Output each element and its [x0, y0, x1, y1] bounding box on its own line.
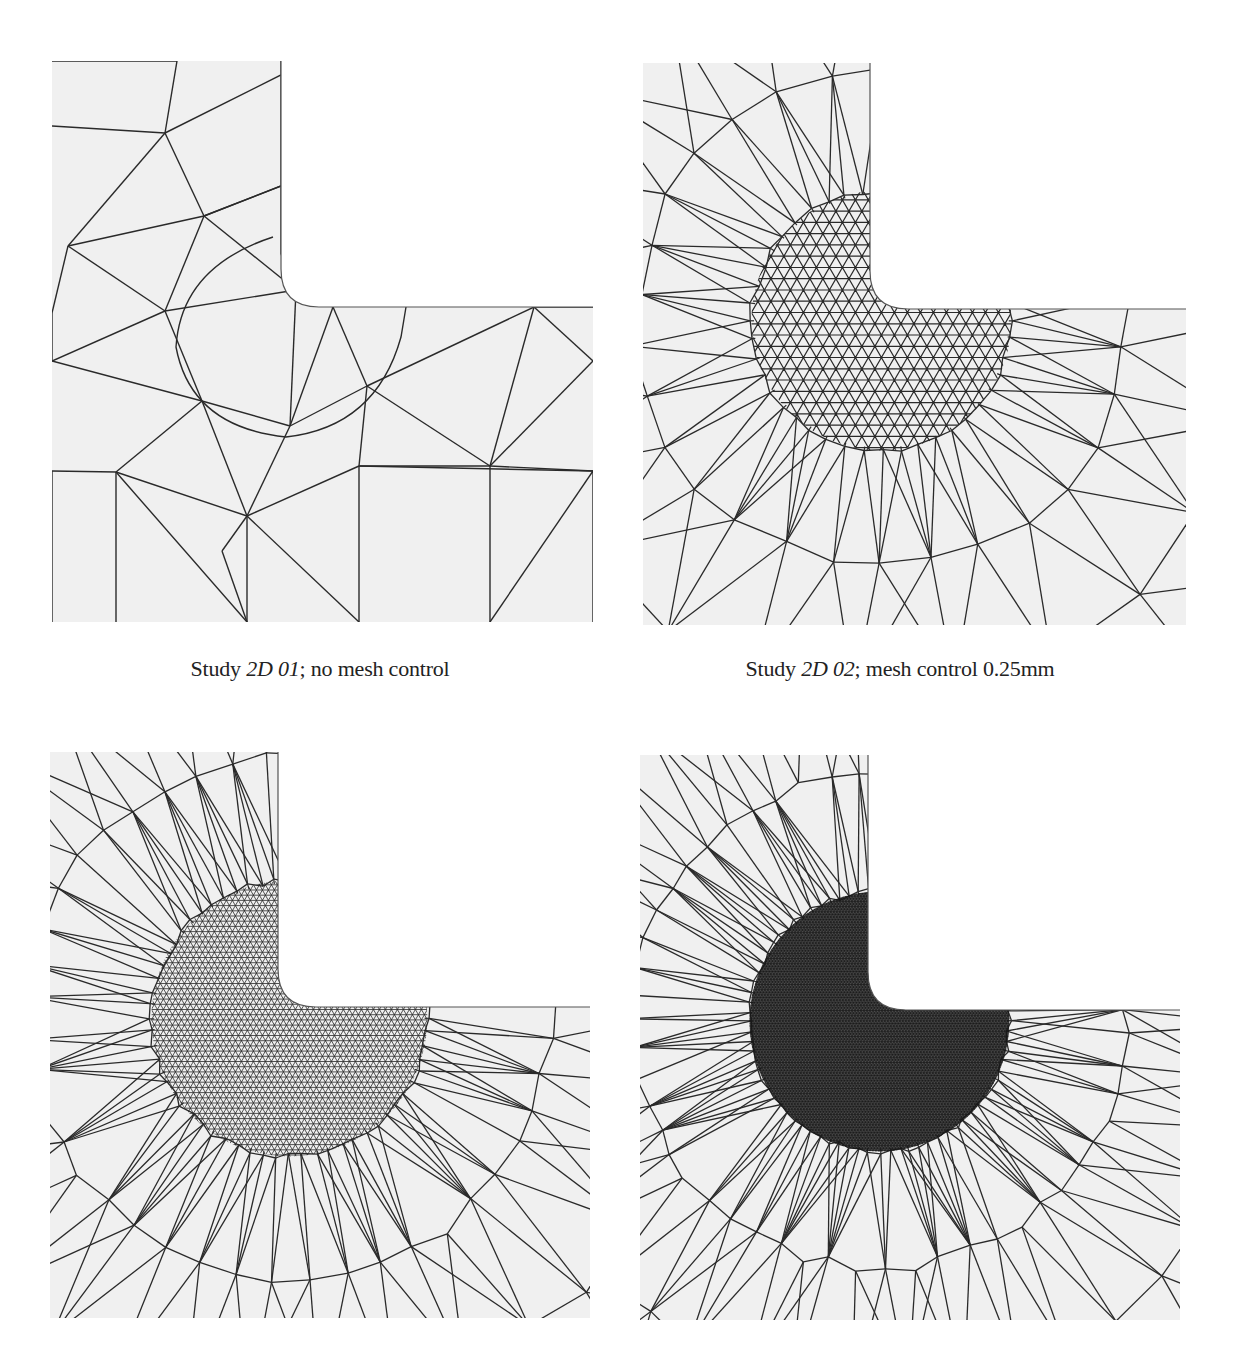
mesh-panel-2d-02: [643, 63, 1186, 625]
domain-boundary: [281, 61, 593, 307]
mesh-panel-2d-03: [50, 752, 590, 1318]
panel-caption: Study 2D 02; mesh control 0.25mm: [746, 656, 1055, 682]
domain-boundary: [278, 752, 590, 1007]
mesh-domain: [50, 752, 590, 1318]
domain-boundary: [870, 63, 1186, 309]
mesh-domain: [52, 61, 593, 622]
caption-study-id: 2D 02: [801, 656, 854, 681]
caption-prefix: Study: [746, 656, 802, 681]
mesh-panel-2d-04: [640, 755, 1180, 1320]
caption-description: ; mesh control 0.25mm: [855, 656, 1055, 681]
mesh-domain: [643, 63, 1186, 625]
domain-boundary: [868, 755, 1180, 1010]
caption-prefix: Study: [190, 656, 246, 681]
caption-description: ; no mesh control: [300, 656, 450, 681]
panel-caption: Study 2D 01; no mesh control: [190, 656, 449, 682]
caption-study-id: 2D 01: [246, 656, 299, 681]
mesh-panel-2d-01: [52, 61, 593, 622]
